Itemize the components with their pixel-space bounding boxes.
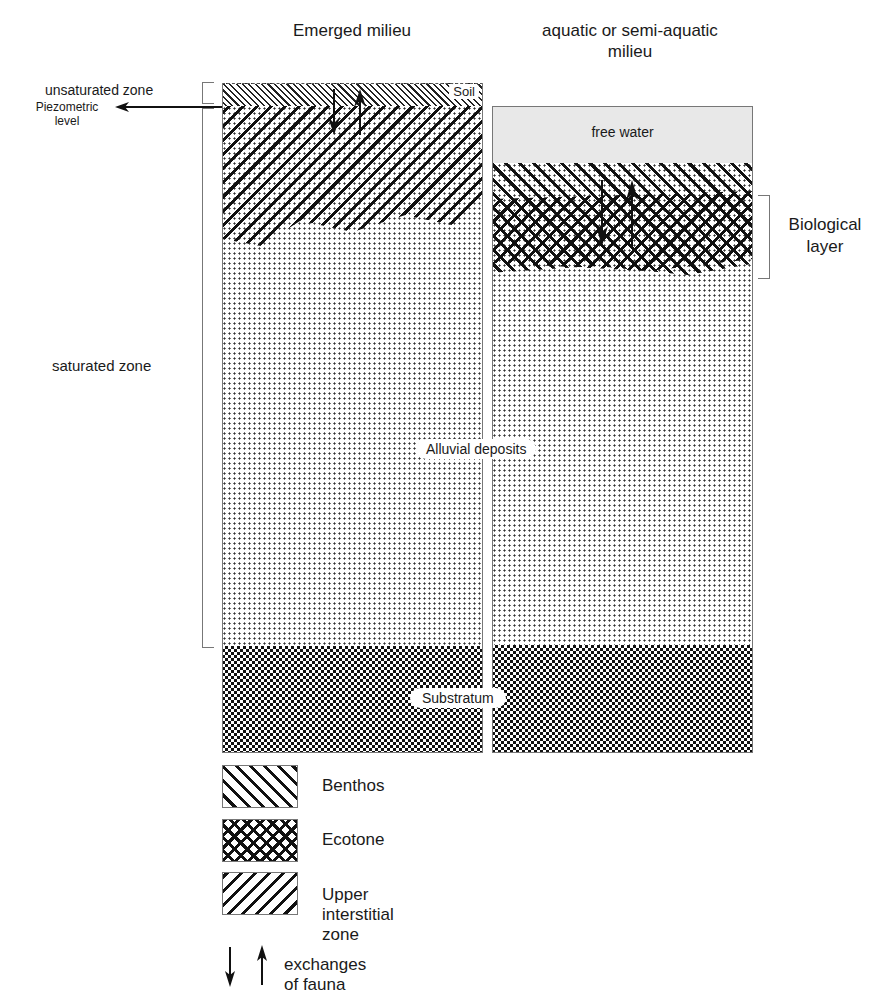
fauna-exchange-legend-label: exchanges of fauna — [284, 955, 366, 995]
benthos-swatch — [222, 765, 298, 808]
unsaturated-zone-label: unsaturated zone — [45, 82, 153, 98]
upper-interstitial-swatch — [222, 872, 298, 915]
emerged-milieu-title: Emerged milieu — [232, 20, 472, 41]
biological-layer-label: Biological layer — [775, 214, 875, 258]
upper-interstitial-legend-label: Upper interstitial zone — [322, 885, 394, 945]
aquatic-milieu-title: aquatic or semi-aquatic milieu — [500, 20, 760, 62]
ecotone-legend-label: Ecotone — [322, 830, 384, 850]
saturated-zone-bracket — [202, 108, 214, 648]
fauna-exchange-legend-arrows-icon — [222, 945, 272, 987]
saturated-zone-label: saturated zone — [52, 358, 151, 374]
substratum-label: Substratum — [410, 688, 506, 708]
piezometric-line1: Piezometric — [22, 100, 112, 114]
emerged-column: Soil — [222, 83, 483, 753]
fauna-exchange-arrows-icon — [322, 87, 372, 139]
alluvial-deposits-label: Alluvial deposits — [416, 439, 536, 459]
aquatic-title-line2: milieu — [500, 41, 760, 62]
piezometric-line2: level — [22, 114, 112, 128]
biological-line2: layer — [775, 236, 875, 258]
benthos-legend-label: Benthos — [322, 776, 384, 796]
fauna-exchange-arrows-icon — [590, 178, 640, 250]
emerged-column-frame — [222, 83, 483, 753]
piezometric-level-label: Piezometric level — [22, 100, 112, 128]
biological-layer-bracket — [758, 195, 770, 279]
aquatic-title-line1: aquatic or semi-aquatic — [500, 20, 760, 41]
biological-line1: Biological — [775, 214, 875, 236]
ecotone-swatch — [222, 819, 298, 862]
aquatic-column: free water — [492, 106, 753, 753]
